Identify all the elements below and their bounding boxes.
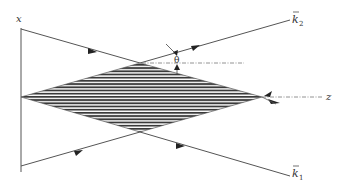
x-axis-label: x bbox=[16, 13, 22, 24]
arrow-icon bbox=[264, 91, 272, 97]
svg-text:k: k bbox=[292, 13, 299, 26]
svg-text:k: k bbox=[292, 167, 299, 180]
arrow-icon bbox=[74, 150, 83, 156]
theta-label: θ bbox=[174, 55, 179, 65]
svg-text:2: 2 bbox=[299, 20, 303, 28]
interference-region bbox=[21, 63, 262, 132]
diagram-canvas: x z θ k 2 k 1 bbox=[0, 0, 348, 189]
svg-text:1: 1 bbox=[299, 174, 303, 182]
arrow-icon bbox=[191, 45, 200, 51]
k2-label: k 2 bbox=[292, 12, 303, 28]
k1-label: k 1 bbox=[292, 166, 303, 182]
z-axis-label: z bbox=[325, 91, 332, 102]
arrow-icon bbox=[88, 48, 97, 54]
